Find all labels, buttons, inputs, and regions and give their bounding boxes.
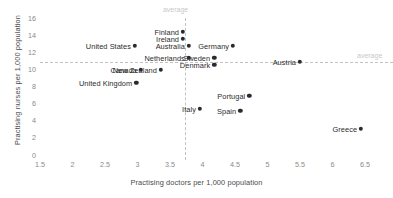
- data-point-label: Denmark: [180, 61, 210, 70]
- y-tick-label: 14: [18, 31, 36, 40]
- data-point-label: Spain: [217, 106, 236, 115]
- average-line-vertical: [185, 18, 186, 160]
- x-tick-label: 2: [61, 160, 85, 169]
- y-tick-label: 6: [18, 99, 36, 108]
- data-point-label: Netherlands: [144, 53, 184, 62]
- x-tick-label: 6: [321, 160, 345, 169]
- data-point-label: Austria: [273, 58, 296, 67]
- data-point[interactable]: [231, 44, 235, 48]
- x-tick-label: 4.5: [223, 160, 247, 169]
- data-point[interactable]: [198, 107, 202, 111]
- x-tick-label: 1.5: [28, 160, 52, 169]
- x-tick-label: 4: [191, 160, 215, 169]
- average-line-horizontal: [40, 62, 393, 63]
- x-tick-label: 3: [126, 160, 150, 169]
- data-point[interactable]: [212, 63, 216, 67]
- y-tick-label: 0: [18, 151, 36, 160]
- y-tick-label: 4: [18, 116, 36, 125]
- data-point[interactable]: [134, 81, 138, 85]
- data-point[interactable]: [247, 94, 251, 98]
- y-tick-label: 12: [18, 48, 36, 57]
- x-tick-label: 6.5: [353, 160, 377, 169]
- data-point-label: Portugal: [217, 92, 245, 101]
- average-label-top: average: [163, 6, 188, 13]
- data-point-label: Australia: [156, 41, 185, 50]
- data-point-label: Canada: [111, 65, 137, 74]
- data-point[interactable]: [238, 109, 242, 113]
- data-point[interactable]: [359, 127, 363, 131]
- data-point-label: Italy: [182, 105, 196, 114]
- y-tick-label: 2: [18, 133, 36, 142]
- x-tick-label: 2.5: [93, 160, 117, 169]
- average-label-right: average: [357, 52, 382, 59]
- y-tick-label: 10: [18, 65, 36, 74]
- scatter-chart: averageaverageFinlandIrelandAustraliaGer…: [0, 0, 393, 198]
- data-point[interactable]: [298, 60, 302, 64]
- data-point-label: United Kingdom: [79, 78, 132, 87]
- data-point[interactable]: [187, 44, 191, 48]
- data-point[interactable]: [133, 44, 137, 48]
- data-point[interactable]: [212, 56, 216, 60]
- data-point-label: Germany: [198, 41, 229, 50]
- data-point-label: Greece: [333, 124, 358, 133]
- y-tick-label: 16: [18, 14, 36, 23]
- x-tick-label: 3.5: [158, 160, 182, 169]
- x-tick-label: 5.5: [288, 160, 312, 169]
- y-tick-label: 8: [18, 82, 36, 91]
- data-point[interactable]: [159, 68, 163, 72]
- x-tick-label: 5: [256, 160, 280, 169]
- x-axis-title: Practising doctors per 1,000 population: [0, 178, 393, 187]
- data-point-label: United States: [86, 41, 131, 50]
